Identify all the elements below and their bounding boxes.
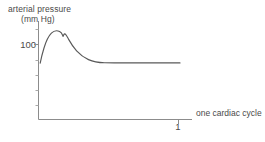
plot-area	[0, 0, 265, 142]
pressure-waveform	[40, 31, 180, 63]
x-axis	[39, 120, 193, 125]
arterial-pressure-chart: arterial pressure(mm Hg) 100 1 one cardi…	[0, 0, 265, 142]
y-axis	[34, 21, 39, 120]
